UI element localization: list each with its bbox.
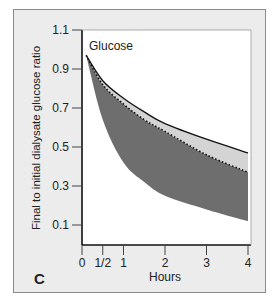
glucose-chart: 0.10.30.50.70.91.1 01/21234 Glucose Hour… — [0, 0, 278, 304]
x-tick-label: 1/2 — [94, 256, 111, 270]
y-axis-label: Final to initial dialysate glucose ratio — [30, 46, 42, 230]
x-tick-label: 3 — [203, 256, 210, 270]
y-tick-label: 1.1 — [52, 23, 69, 37]
y-tick-label: 0.5 — [52, 140, 69, 154]
x-axis-label: Hours — [149, 270, 181, 284]
panel-label: C — [34, 270, 45, 287]
y-tick-label: 0.1 — [52, 218, 69, 232]
y-tick-label: 0.9 — [52, 62, 69, 76]
series-annotation: Glucose — [89, 39, 133, 53]
x-tick-label: 4 — [245, 256, 252, 270]
x-ticks: 01/21234 — [79, 245, 252, 270]
x-tick-label: 0 — [79, 256, 86, 270]
y-tick-label: 0.3 — [52, 179, 69, 193]
y-tick-label: 0.7 — [52, 101, 69, 115]
y-ticks: 0.10.30.50.70.91.1 — [52, 23, 82, 232]
x-tick-label: 2 — [162, 256, 169, 270]
x-tick-label: 1 — [120, 256, 127, 270]
